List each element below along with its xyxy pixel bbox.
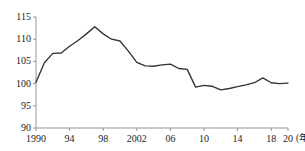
y-axis-tick-label: 95	[2, 101, 31, 111]
chart-series	[36, 27, 288, 90]
x-axis-unit-label: (年)	[296, 134, 305, 144]
y-axis-tick-label: 110	[2, 34, 31, 44]
x-axis-tick-label: 2002	[120, 134, 154, 144]
y-axis-tick-label: 90	[2, 123, 31, 133]
y-axis-tick-label: 115	[2, 12, 31, 22]
x-axis-tick-label: 98	[86, 134, 120, 144]
chart-plot-area	[0, 0, 305, 151]
x-axis-tick-label: 1990	[19, 134, 53, 144]
x-axis-tick-label: 14	[221, 134, 255, 144]
x-axis-tick-label: 10	[187, 134, 221, 144]
x-axis-tick-label: 06	[153, 134, 187, 144]
data-line-index	[36, 27, 288, 90]
x-axis-tick-label: 94	[53, 134, 87, 144]
line-chart: 9095100105110115 1990949820020610141820 …	[0, 0, 305, 151]
y-axis-tick-label: 105	[2, 56, 31, 66]
y-axis-tick-label: 100	[2, 79, 31, 89]
chart-axes	[36, 17, 288, 128]
